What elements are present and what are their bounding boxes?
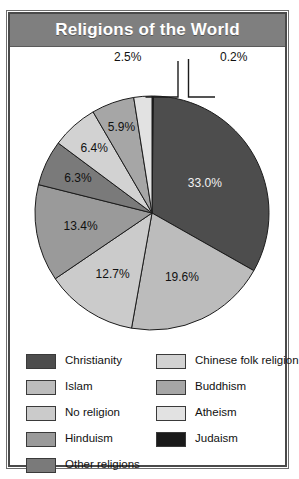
legend-swatch-christianity (26, 354, 56, 369)
legend-swatch-islam (26, 380, 56, 395)
legend-item-no-religion[interactable]: No religion (26, 400, 161, 426)
pie-slice-label-islam: 19.6% (165, 270, 199, 284)
pie-slice-label-other-religions: 6.3% (64, 171, 92, 185)
legend-item-christianity[interactable]: Christianity (26, 348, 161, 374)
legend-swatch-judaism (156, 432, 186, 447)
legend-item-buddhism[interactable]: Buddhism (156, 374, 291, 400)
legend: ChristianityIslamNo religionHinduismOthe… (10, 342, 285, 467)
legend-label-other-religions: Other religions (65, 459, 140, 471)
pie-chart-svg: 0.2%33.0%19.6%12.7%13.4%6.3%6.4%5.9%2.5% (10, 47, 285, 342)
legend-item-judaism[interactable]: Judaism (156, 426, 291, 452)
legend-item-atheism[interactable]: Atheism (156, 400, 291, 426)
legend-label-christianity: Christianity (65, 355, 122, 367)
legend-item-other-religions[interactable]: Other religions (26, 452, 161, 478)
chart-frame: Religions of the World 0.2%33.0%19.6%12.… (8, 12, 287, 467)
chart-title-bar: Religions of the World (10, 14, 285, 47)
legend-item-chinese-folk-religion[interactable]: Chinese folk religion (156, 348, 291, 374)
page-title: Religions of the World (55, 20, 239, 40)
pie-slice-label-christianity: 33.0% (188, 176, 222, 190)
leader-line-group (146, 59, 216, 97)
pie-slice-label-no-religion: 12.7% (96, 267, 130, 281)
pie-chart-plot-area: 0.2%33.0%19.6%12.7%13.4%6.3%6.4%5.9%2.5% (10, 47, 285, 342)
legend-label-islam: Islam (65, 381, 92, 393)
pie-slice-label-judaism: 0.2% (220, 50, 248, 64)
legend-label-chinese-folk-religion: Chinese folk religion (195, 355, 295, 367)
legend-swatch-chinese-folk-religion (156, 354, 186, 369)
pie-slice-label-buddhism: 5.9% (108, 120, 136, 134)
legend-label-atheism: Atheism (195, 407, 237, 419)
leader-line-atheism (146, 61, 179, 97)
legend-label-no-religion: No religion (65, 407, 120, 419)
pie-slice-label-chinese-folk-religion: 6.4% (81, 141, 109, 155)
leader-line-judaism (189, 59, 216, 97)
legend-swatch-atheism (156, 406, 186, 421)
pie-slice-label-hinduism: 13.4% (64, 219, 98, 233)
legend-label-hinduism: Hinduism (65, 433, 113, 445)
pie-slice-label-atheism: 2.5% (114, 50, 142, 64)
legend-label-buddhism: Buddhism (195, 381, 246, 393)
legend-swatch-buddhism (156, 380, 186, 395)
legend-label-judaism: Judaism (195, 433, 238, 445)
legend-swatch-no-religion (26, 406, 56, 421)
legend-swatch-hinduism (26, 432, 56, 447)
pie-slice-group (35, 96, 269, 330)
legend-swatch-other-religions (26, 458, 56, 473)
legend-column-left: ChristianityIslamNo religionHinduismOthe… (26, 348, 161, 478)
legend-column-right: Chinese folk religionBuddhismAtheismJuda… (156, 348, 291, 452)
legend-item-hinduism[interactable]: Hinduism (26, 426, 161, 452)
legend-item-islam[interactable]: Islam (26, 374, 161, 400)
